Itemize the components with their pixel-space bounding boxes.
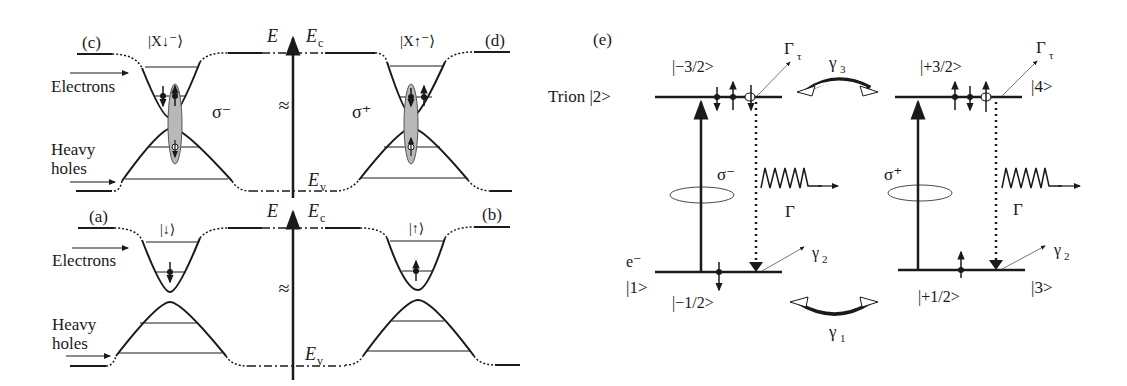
panel-e-tag: (e)	[593, 30, 612, 49]
panel-a: (a) |↓⟩ Electrons Heavy holes	[52, 207, 262, 366]
panel-a-heavy: Heavy	[52, 315, 97, 334]
panel-d-tag: (d)	[485, 31, 505, 50]
panel-c-polarization: σ⁻	[212, 102, 231, 122]
state-1: |1>	[626, 278, 648, 297]
panel-c: (c) |X↓⁻⟩ Electrons Heavy holes σ⁻	[51, 33, 262, 191]
state-minus-1-2: |−1/2>	[672, 294, 714, 312]
state-4: |4>	[1031, 77, 1053, 96]
panel-c-holes: holes	[51, 159, 87, 178]
svg-text:c: c	[320, 211, 325, 225]
svg-text:v: v	[317, 354, 323, 368]
gamma-tau-left: Γ	[784, 39, 794, 58]
svg-text:c: c	[318, 36, 323, 50]
panel-c-state: |X↓⁻⟩	[148, 33, 183, 49]
trion-label: Trion |2>	[548, 87, 611, 106]
electron-label: e⁻	[626, 253, 642, 270]
Ec-bottom: E	[307, 201, 319, 221]
gamma-tau-right: Γ	[1036, 38, 1046, 57]
panel-e: (e) Trion |2> |−3/2> Γ τ σ⁻ Γ γ 2 e⁻ |1>…	[548, 30, 1080, 344]
state-minus-3-2: |−3/2>	[672, 58, 714, 76]
Gamma-left: Γ	[785, 202, 795, 221]
svg-text:τ: τ	[797, 50, 802, 62]
Ec-top: E	[305, 26, 317, 46]
gamma2-left: γ	[811, 244, 819, 262]
energy-axis: ≈ ≈ E E c E v E E c E v	[266, 26, 326, 380]
axis-break-top: ≈	[279, 94, 290, 116]
axis-E-top: E	[266, 26, 278, 46]
Gamma-right: Γ	[1013, 200, 1023, 219]
panel-a-state: |↓⟩	[160, 222, 175, 237]
panel-d-state: |X↑⁻⟩	[400, 33, 435, 49]
sigma-minus-label: σ⁻	[717, 165, 735, 184]
svg-text:2: 2	[1064, 250, 1070, 262]
panel-b-tag: (b)	[482, 205, 502, 224]
Ev-bottom: E	[304, 344, 316, 364]
panel-d: (d) |X↑⁻⟩ σ⁺	[325, 31, 512, 191]
svg-text:3: 3	[840, 63, 846, 75]
gamma1-label: γ	[828, 322, 837, 341]
axis-E-bottom: E	[266, 201, 278, 221]
gamma2-right: γ	[1053, 241, 1061, 259]
svg-text:2: 2	[822, 253, 828, 265]
axis-break-bottom: ≈	[279, 277, 290, 299]
panel-a-electrons: Electrons	[52, 251, 116, 270]
svg-text:τ: τ	[1049, 49, 1054, 61]
panel-c-heavy: Heavy	[51, 140, 96, 159]
state-3: |3>	[1031, 278, 1053, 297]
state-plus-3-2: |+3/2>	[920, 58, 962, 76]
Ev-top: E	[307, 170, 319, 190]
panel-b: (b) |↑⟩	[325, 205, 520, 365]
panel-a-holes: holes	[52, 334, 88, 353]
sigma-plus-label: σ⁺	[884, 165, 902, 184]
panel-d-polarization: σ⁺	[352, 102, 371, 122]
panel-a-tag: (a)	[89, 207, 108, 226]
panel-c-tag: (c)	[82, 33, 101, 52]
gamma3-label: γ	[828, 53, 837, 72]
svg-text:1: 1	[840, 332, 846, 344]
panel-c-electrons: Electrons	[51, 77, 115, 96]
state-plus-1-2: |+1/2>	[918, 288, 960, 306]
svg-text:v: v	[320, 180, 326, 194]
figure: (c) |X↓⁻⟩ Electrons Heavy holes σ⁻ (d) |…	[0, 0, 1127, 386]
panel-b-state: |↑⟩	[409, 221, 424, 236]
